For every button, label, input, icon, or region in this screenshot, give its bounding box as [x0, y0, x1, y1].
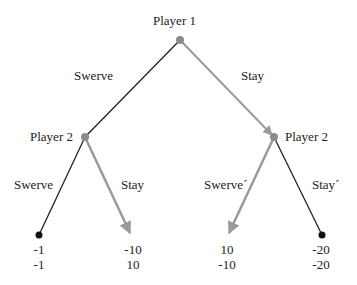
payoff-4: -20 -20 [301, 242, 341, 272]
payoff-p2: -10 [207, 257, 247, 272]
player2-right-label: Player 2 [285, 130, 328, 143]
payoff-p2: -20 [301, 257, 341, 272]
edge-root-stay [180, 40, 272, 135]
leaf-swerve-swerve [36, 232, 43, 239]
edge-label-right-stay: Stay´ [312, 178, 339, 191]
edge-label-left-swerve: Swerve [14, 178, 53, 191]
payoff-p2: 10 [113, 257, 153, 272]
payoff-3: 10 -10 [207, 242, 247, 272]
node-player2-right [270, 133, 278, 141]
node-player1 [176, 36, 184, 44]
edge-label-root-stay: Stay [241, 69, 264, 82]
leaf-stay-stay [319, 232, 326, 239]
edge-label-root-swerve: Swerve [74, 69, 113, 82]
node-player2-left [81, 133, 89, 141]
payoff-p1: 10 [207, 242, 247, 257]
player1-label: Player 1 [153, 14, 196, 27]
payoff-p2: -1 [19, 257, 59, 272]
payoff-p1: -10 [113, 242, 153, 257]
payoff-1: -1 -1 [19, 242, 59, 272]
edge-root-swerve [85, 40, 180, 137]
player2-left-label: Player 2 [30, 130, 73, 143]
payoff-2: -10 10 [113, 242, 153, 272]
edge-label-right-swerve: Swerve´ [204, 178, 247, 191]
payoff-p1: -20 [301, 242, 341, 257]
payoff-p1: -1 [19, 242, 59, 257]
edge-label-left-stay: Stay [121, 178, 144, 191]
